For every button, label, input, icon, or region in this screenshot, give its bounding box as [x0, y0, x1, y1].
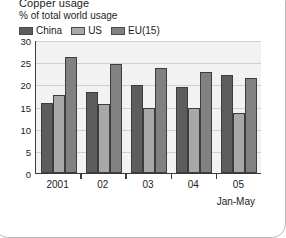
bar — [110, 64, 122, 173]
bar-group — [171, 41, 216, 173]
y-tick-label: 5 — [26, 146, 31, 157]
bar-group — [36, 41, 81, 173]
legend-item-eu-15: EU(15) — [111, 26, 160, 36]
x-tick-mark — [125, 174, 126, 179]
bar-group — [216, 41, 261, 173]
y-tick-label: 0 — [26, 169, 31, 180]
x-tick-mark — [80, 174, 81, 179]
bar — [65, 57, 77, 173]
bar — [188, 108, 200, 173]
bar — [200, 72, 212, 173]
chart-legend: ChinaUSEU(15) — [19, 26, 160, 36]
chart-card: Copper usage % of total world usage Chin… — [0, 0, 286, 234]
bar — [53, 95, 65, 173]
chart-note: Jan-May — [35, 196, 261, 207]
y-tick-label: 10 — [20, 124, 31, 135]
legend-swatch-icon — [71, 27, 85, 35]
y-axis: 051015202530 — [15, 41, 33, 174]
chart-container: Copper usage % of total world usage Chin… — [0, 0, 281, 223]
chart-subtitle: % of total world usage — [19, 10, 117, 21]
y-tick-label: 20 — [20, 80, 31, 91]
x-tick-label: 2001 — [35, 179, 80, 190]
legend-swatch-icon — [111, 27, 125, 35]
bar — [245, 78, 257, 173]
y-tick-label: 30 — [20, 36, 31, 47]
chart-title: Copper usage — [19, 0, 89, 9]
x-tick-label: 02 — [80, 179, 125, 190]
bar — [131, 85, 143, 173]
x-tick-label: 05 — [216, 179, 261, 190]
legend-swatch-icon — [19, 27, 33, 35]
x-tick-mark — [216, 174, 217, 179]
bar — [233, 113, 245, 173]
bar — [143, 108, 155, 173]
x-axis-labels: 200102030405 — [35, 179, 261, 190]
x-tick-label: 03 — [125, 179, 170, 190]
legend-label: US — [88, 26, 102, 36]
plot-area: 051015202530 200102030405 Jan-May — [15, 41, 261, 188]
bar — [41, 103, 53, 173]
bar-group — [126, 41, 171, 173]
bar — [155, 68, 167, 173]
legend-label: EU(15) — [128, 26, 160, 36]
x-tick-label: 04 — [171, 179, 216, 190]
y-tick-label: 15 — [20, 102, 31, 113]
legend-item-china: China — [19, 26, 62, 36]
plot-canvas — [35, 41, 261, 174]
bar — [98, 104, 110, 173]
x-tick-mark — [171, 174, 172, 179]
bar — [221, 75, 233, 173]
legend-item-us: US — [71, 26, 102, 36]
bar — [86, 92, 98, 173]
bar — [176, 87, 188, 173]
legend-label: China — [36, 26, 62, 36]
bar-groups — [36, 41, 261, 173]
bar-group — [81, 41, 126, 173]
y-tick-label: 25 — [20, 58, 31, 69]
